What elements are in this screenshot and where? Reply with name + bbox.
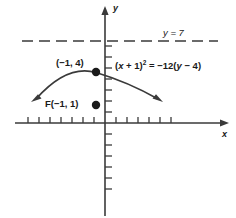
vertex-label: (−1, 4) xyxy=(56,58,84,68)
graph-canvas xyxy=(0,0,236,218)
equation-plus-one: + 1) xyxy=(123,60,142,71)
x-axis-arrowhead xyxy=(220,119,229,126)
equation-minus-four: − 4) xyxy=(182,60,201,71)
focus-point-dot xyxy=(92,101,100,109)
y-axis-label: y xyxy=(113,4,118,13)
vertex-point-dot xyxy=(92,68,100,76)
y-axis-ticks-negative xyxy=(105,134,112,189)
y-axis-ticks-positive xyxy=(105,46,112,112)
parabola-figure: y = 7 (−1, 4) F(−1, 1) (x + 1)2 = −12(y … xyxy=(0,0,236,218)
equation-equals: = xyxy=(146,60,157,71)
x-axis-label: x xyxy=(222,130,227,139)
focus-label: F(−1, 1) xyxy=(45,99,79,109)
equation-minus-twelve: −12( xyxy=(157,60,176,71)
parabola-equation-label: (x + 1)2 = −12(y − 4) xyxy=(115,61,201,71)
x-axis-ticks-positive xyxy=(116,117,171,123)
y-axis-arrowhead xyxy=(101,6,108,15)
parabola-right-arrowhead xyxy=(153,94,164,102)
directrix-label: y = 7 xyxy=(163,28,184,38)
x-axis-ticks-negative xyxy=(28,117,94,123)
